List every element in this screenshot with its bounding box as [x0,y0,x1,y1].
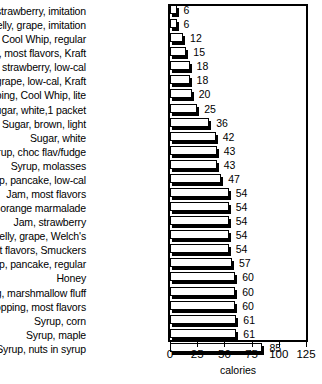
bar-category-label: Jam, strawberry, low-cal [0,60,86,74]
bar-rows: Jam, strawberry, imitation6Jelly, grape,… [0,4,322,342]
bar-value-label: 42 [223,131,235,144]
bar [170,329,236,338]
bar-category-label: Sugar, white [0,131,86,145]
x-axis-title: calories [168,364,308,377]
bar-value-label: 20 [199,88,211,101]
bar-category-label: Syrup, nuts in syrup [0,342,86,356]
bar-wrap: 54 [170,243,308,257]
bar-value-label: 60 [242,271,254,284]
bar-row: Jelly, grape, Welch's54 [0,229,322,243]
bar [170,174,221,183]
bar [170,258,232,267]
bar-value-label: 47 [228,173,240,186]
bar-row: Topping, marshmallow fluff60 [0,286,322,300]
bar-category-label: Jam, strawberry, imitation [0,4,86,18]
bar-category-label: Topping, marshmallow fluff [0,286,86,300]
bar-row: Jam, orange marmalade54 [0,201,322,215]
bar-wrap: 54 [170,215,308,229]
bar-value-label: 6 [184,18,190,31]
bar [170,5,177,14]
bar-category-label: Syrup, corn [0,314,86,328]
bar-value-label: 15 [193,46,205,59]
bar-wrap: 6 [170,18,308,32]
bar-value-label: 25 [204,103,216,116]
bar-row: Sugar, brown, light36 [0,117,322,131]
bar-category-label: Jelly, grape, low-cal, Kraft [0,74,86,88]
bar-category-label: Jelly, most flavors, Kraft [0,46,86,60]
bar-value-label: 6 [184,4,190,17]
bar-row: Jam, strawberry, imitation6 [0,4,322,18]
bar-wrap: 6 [170,4,308,18]
bar [170,216,229,225]
x-tick-label: 50 [218,347,231,361]
bar-category-label: Jelly, most flavors, Smuckers [0,243,86,257]
bar-wrap: 47 [170,173,308,187]
bar-row: Syrup, molasses43 [0,159,322,173]
bar-wrap: 54 [170,187,308,201]
bar-category-label: Jam, strawberry [0,215,86,229]
bar-wrap: 57 [170,257,308,271]
bar-row: Honey60 [0,271,322,285]
bar-row: Syrup, pancake, regular57 [0,257,322,271]
bar-value-label: 61 [243,314,255,327]
bar-category-label: Jam, most flavors [0,187,86,201]
bar-row: Syrup, corn61 [0,314,322,328]
bar-category-label: Jam, orange marmalade [0,201,86,215]
bar [170,244,229,253]
bar [170,272,235,281]
bar-value-label: 57 [239,257,251,270]
bar [170,287,235,296]
bar-wrap: 54 [170,201,308,215]
bar [170,202,229,211]
bar-category-label: Syrup, pancake, low-cal [0,173,86,187]
bar [170,61,190,70]
bar-wrap: 20 [170,88,308,102]
bar-row: Jelly, grape, imitation6 [0,18,322,32]
bar-category-label: Topping, Cool Whip, lite [0,88,86,102]
bar-value-label: 18 [197,60,209,73]
bar-row: Topping, Cool Whip, lite20 [0,88,322,102]
bar-wrap: 60 [170,300,308,314]
bar-row: Jelly, grape, low-cal, Kraft18 [0,74,322,88]
bar-wrap: 60 [170,286,308,300]
bar [170,146,217,155]
bar-wrap: 61 [170,314,308,328]
x-axis: 0255075100125 calories [168,342,308,384]
bar-row: Syrup, maple61 [0,328,322,342]
bar-value-label: 54 [236,201,248,214]
x-tick-label: 25 [191,347,204,361]
bar [170,132,216,141]
bar-value-label: 61 [243,328,255,341]
x-tick-label: 125 [296,347,315,361]
bar-category-label: Syrup, choc flav/fudge [0,145,86,159]
bar-row: Jelly, most flavors, Smuckers54 [0,243,322,257]
bar-category-label: Topping, Cool Whip, regular [0,32,86,46]
bar-value-label: 18 [197,74,209,87]
bar-value-label: 54 [236,187,248,200]
bar-category-label: Jelly, grape, imitation [0,18,86,32]
bar [170,104,197,113]
bar-row: Jam, strawberry54 [0,215,322,229]
bar-wrap: 15 [170,46,308,60]
bar [170,75,190,84]
bar-value-label: 43 [224,145,236,158]
bar-wrap: 36 [170,117,308,131]
bar-value-label: 12 [190,32,202,45]
bar-value-label: 54 [236,229,248,242]
calories-bar-chart: Jam, strawberry, imitation6Jelly, grape,… [0,0,322,384]
x-tick-label: 100 [269,347,288,361]
x-tick-label: 0 [167,347,173,361]
bar-category-label: Syrup, molasses [0,159,86,173]
bar-row: Jam, strawberry, low-cal18 [0,60,322,74]
bar-value-label: 60 [242,286,254,299]
bar [170,301,235,310]
bar-category-label: Topping, most flavors [0,300,86,314]
bar-wrap: 54 [170,229,308,243]
x-tick-label: 75 [245,347,258,361]
bar-value-label: 60 [242,300,254,313]
bar [170,33,183,42]
bar [170,118,209,127]
bar-category-label: Syrup, maple [0,328,86,342]
bar [170,188,229,197]
bar [170,19,177,28]
